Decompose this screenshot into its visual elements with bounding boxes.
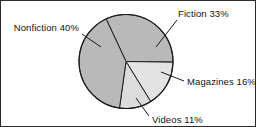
pie-label-magazines: Magazines 16% xyxy=(187,76,256,87)
pie-chart-figure: Fiction 33% Nonfiction 40% Magazines 16%… xyxy=(0,0,256,127)
pie-label-videos: Videos 11% xyxy=(152,114,203,125)
pie-slices xyxy=(79,15,173,109)
pie-label-fiction: Fiction 33% xyxy=(178,8,229,19)
pie-chart-svg: Fiction 33% Nonfiction 40% Magazines 16%… xyxy=(1,1,256,127)
pie-label-nonfiction: Nonfiction 40% xyxy=(14,22,80,33)
